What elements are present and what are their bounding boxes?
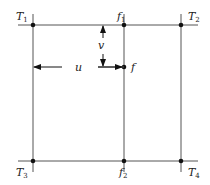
label-f1: f1 bbox=[116, 10, 126, 24]
point-f2 bbox=[122, 159, 127, 164]
label-t1: T1 bbox=[16, 10, 28, 24]
label-u: u bbox=[75, 61, 82, 74]
label-t4: T4 bbox=[188, 166, 200, 180]
point-t2 bbox=[179, 23, 184, 28]
label-v: v bbox=[98, 39, 105, 52]
point-t4 bbox=[179, 159, 184, 164]
label-f2: f2 bbox=[118, 166, 128, 180]
label-f: f bbox=[130, 61, 137, 74]
label-t3: T3 bbox=[16, 166, 28, 180]
point-t3 bbox=[31, 159, 36, 164]
interpolation-diagram: T1 f1 T2 v u f T3 f2 T4 bbox=[0, 0, 210, 185]
label-t2: T2 bbox=[188, 10, 200, 24]
point-t1 bbox=[31, 23, 36, 28]
